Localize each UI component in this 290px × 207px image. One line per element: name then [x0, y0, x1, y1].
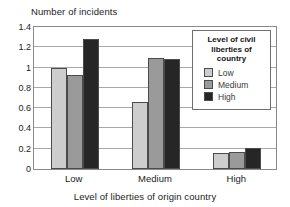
bar: [229, 152, 245, 169]
bar-group: [132, 27, 180, 169]
x-axis-title: Level of liberties of origin country: [0, 191, 290, 202]
legend-item: Medium: [204, 80, 265, 90]
bar: [132, 102, 148, 169]
bar: [164, 59, 180, 169]
legend-title-line-2: liberties of country: [198, 45, 265, 64]
y-axis-tick-label: 0.4: [18, 123, 31, 133]
bar-group: [51, 27, 99, 169]
y-axis-tick-label: 0.8: [18, 83, 31, 93]
legend-item: Low: [204, 68, 265, 78]
bar: [51, 68, 67, 169]
bar: [245, 148, 261, 169]
x-axis-tick-label: High: [206, 173, 266, 184]
y-axis-tick-label: 0: [26, 164, 31, 174]
bar: [148, 58, 164, 169]
x-axis-tick-label: Low: [44, 173, 104, 184]
x-axis-tick-label: Medium: [125, 173, 185, 184]
legend-item: High: [204, 92, 265, 102]
bar-chart: Number of incidents 00.20.40.60.811.21.4…: [0, 0, 290, 207]
y-axis-tick-label: 1: [26, 63, 31, 73]
legend-label: High: [218, 92, 235, 102]
y-axis-tick-label: 1.2: [18, 42, 31, 52]
legend-swatch-icon: [204, 80, 213, 89]
legend: Level of civil liberties of country LowM…: [192, 30, 271, 110]
legend-swatch-icon: [204, 92, 213, 101]
legend-label: Medium: [218, 80, 248, 90]
legend-title-line-1: Level of civil: [198, 35, 265, 45]
bar: [67, 75, 83, 169]
y-axis-tick-label: 1.4: [18, 22, 31, 32]
legend-swatch-icon: [204, 68, 213, 77]
y-axis-tick-label: 0.2: [18, 144, 31, 154]
legend-items: LowMediumHigh: [198, 68, 265, 102]
bar: [213, 153, 229, 169]
legend-title: Level of civil liberties of country: [198, 35, 265, 64]
bar: [83, 39, 99, 169]
y-axis-tick-label: 0.6: [18, 103, 31, 113]
legend-label: Low: [218, 68, 234, 78]
y-axis-title: Number of incidents: [31, 6, 117, 17]
